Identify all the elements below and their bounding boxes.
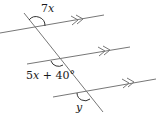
angle-arc-5x-plus-40	[51, 61, 63, 66]
angle-label-5x-plus-40: 5x + 40°	[26, 69, 75, 82]
parallel-lines-diagram: 7x 5x + 40° y	[0, 0, 167, 127]
angle-arc-y	[77, 93, 90, 101]
angle-label-y: y	[75, 101, 83, 114]
double-arrow-icon	[122, 78, 134, 88]
angle-arc-7x	[29, 17, 45, 26]
angle-label-7x: 7x	[41, 2, 55, 15]
double-arrow-icon	[98, 46, 110, 56]
parallel-line-1	[0, 15, 104, 33]
parallel-line-2	[27, 46, 130, 64]
